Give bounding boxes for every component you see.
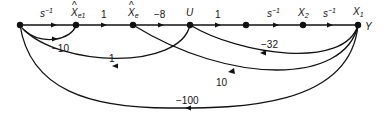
hat-icon: ^: [129, 0, 134, 11]
hat-icon: ^: [72, 0, 77, 11]
arrow-icon: [158, 23, 164, 28]
arrow-icon: [215, 23, 221, 28]
output-label-y: Y: [365, 21, 373, 32]
arrow-icon: [327, 23, 333, 28]
gain-label: s−1: [267, 7, 280, 19]
feedback-label: −100: [176, 95, 199, 106]
node-input: [17, 22, 23, 28]
gain-label: 1: [215, 9, 221, 20]
feedback-edge-m10: [24, 25, 76, 39]
node-label-u: U: [186, 7, 194, 18]
arrow-icon: [228, 68, 235, 74]
gain-label: s−1: [323, 7, 336, 19]
node-x2: [300, 22, 306, 28]
node-xe: [130, 22, 136, 28]
arrow-icon: [273, 23, 279, 28]
arrow-icon: [112, 64, 118, 69]
arrow-icon: [185, 106, 191, 111]
node-x1: [355, 22, 361, 28]
node-label-x2: X2: [297, 7, 309, 19]
signal-flow-graph: Xe1 ^ Xe ^ U X2 X1 Y s−1 1 −8 1 s−1 s−1 …: [0, 0, 387, 120]
feedback-edge-10: [133, 25, 358, 70]
gain-label: −8: [154, 9, 166, 20]
node-label-x1: X1: [352, 6, 364, 18]
node-xe1: [73, 22, 79, 28]
feedback-label: −32: [261, 39, 278, 50]
node-u: [187, 22, 193, 28]
feedback-label: 1: [109, 53, 115, 64]
arrow-icon: [51, 23, 57, 28]
feedback-label: 10: [216, 77, 228, 88]
arrow-icon: [101, 23, 107, 28]
gain-label: 1: [101, 9, 107, 20]
arrow-icon: [52, 37, 58, 42]
feedback-label: −10: [52, 43, 69, 54]
gain-label: s−1: [40, 7, 53, 19]
node-mid: [243, 22, 249, 28]
